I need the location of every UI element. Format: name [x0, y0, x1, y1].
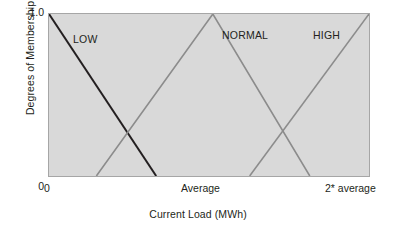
x-axis-tick-middle: Average: [181, 182, 220, 194]
set-label-low: LOW: [73, 33, 98, 45]
x-axis-tick-left: 0: [44, 182, 50, 194]
fuzzy-membership-chart: Degrees of Membership 1.0 0 LOW NORMAL H…: [0, 0, 396, 234]
x-axis-title: Current Load (MWh): [0, 208, 396, 220]
y-axis-tick-bottom: 0: [14, 180, 44, 192]
x-axis-tick-right: 2* average: [325, 182, 376, 194]
series-normal-line: [96, 14, 309, 176]
series-low-line: [49, 14, 156, 176]
set-label-normal: NORMAL: [222, 29, 268, 41]
y-axis-title: Degrees of Membership: [24, 0, 36, 148]
y-axis-tick-top: 1.0: [14, 6, 44, 18]
set-label-high: HIGH: [313, 29, 340, 41]
